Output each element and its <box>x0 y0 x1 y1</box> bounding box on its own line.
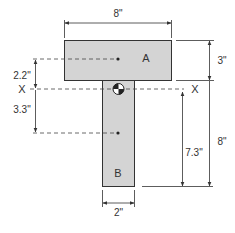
centroid-dot-b <box>116 131 119 134</box>
x-axis-label-left: X <box>18 83 26 95</box>
flange-height-label: 3" <box>217 55 227 66</box>
x-axis-label-right: X <box>191 83 199 95</box>
part-label-a: A <box>142 52 150 64</box>
centroid-to-a-label: 2.2" <box>13 70 31 81</box>
centroid-to-bottom-label: 7.3" <box>185 147 203 158</box>
flange-width-label: 8" <box>113 8 123 19</box>
web-height-label: 8" <box>217 136 227 147</box>
t-section-diagram: A B X X 8" 2.2" 3.3" 3" 8" 7.3" 2" <box>0 0 235 233</box>
centroid-symbol-icon <box>113 84 124 95</box>
web-width-label: 2" <box>114 207 124 218</box>
centroid-to-b-label: 3.3" <box>13 104 31 115</box>
centroid-dot-a <box>116 57 119 60</box>
part-label-b: B <box>114 167 121 179</box>
